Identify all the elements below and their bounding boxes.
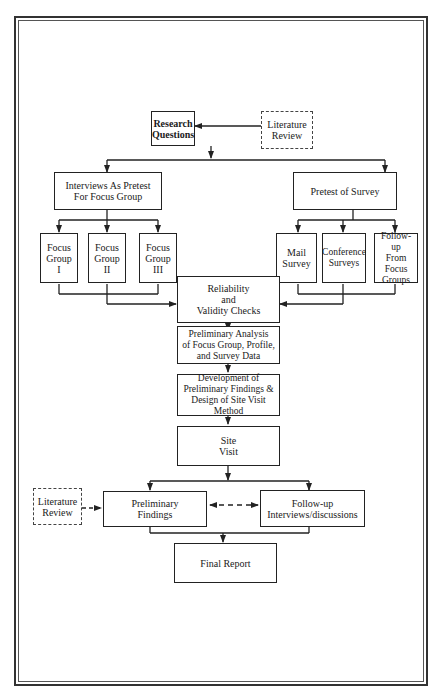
mail-survey-node: Mail Survey bbox=[276, 233, 317, 283]
development-findings-node: Development of Preliminary Findings & De… bbox=[177, 374, 280, 416]
focus-group-2-node: Focus Group II bbox=[88, 233, 126, 283]
reliability-validity-node: Reliability and Validity Checks bbox=[177, 276, 280, 323]
site-visit-node: Site Visit bbox=[177, 426, 280, 466]
research-questions-node: Research Questions bbox=[151, 111, 195, 146]
followup-focus-groups-node: Follow-up From Focus Groups bbox=[374, 233, 418, 283]
focus-group-1-node: Focus Group I bbox=[40, 233, 78, 283]
conference-surveys-node: Conference Surveys bbox=[322, 233, 366, 283]
pretest-survey-node: Pretest of Survey bbox=[293, 172, 397, 210]
followup-interviews-node: Follow-up Interviews/discussions bbox=[260, 490, 365, 527]
preliminary-findings-node: Preliminary Findings bbox=[103, 491, 207, 527]
final-report-node: Final Report bbox=[174, 543, 277, 583]
literature-review-bottom-node: Literature Review bbox=[33, 488, 82, 525]
literature-review-top-node: Literature Review bbox=[261, 111, 313, 149]
focus-group-3-node: Focus Group III bbox=[139, 233, 177, 283]
interviews-pretest-node: Interviews As Pretest For Focus Group bbox=[54, 172, 162, 210]
preliminary-analysis-node: Preliminary Analysis of Focus Group, Pro… bbox=[177, 326, 280, 364]
